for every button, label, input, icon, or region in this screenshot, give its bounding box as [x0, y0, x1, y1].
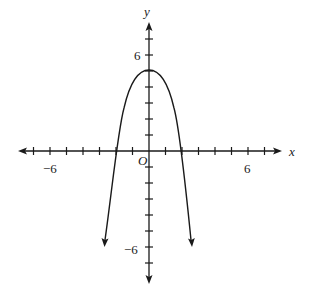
coordinate-graph: x y O −6 6 6 −6 [0, 0, 309, 294]
origin-label: O [138, 153, 148, 168]
x-tick-label-pos6: 6 [244, 161, 251, 176]
x-tick-label-neg6: −6 [43, 161, 57, 176]
x-axis-label: x [288, 144, 295, 159]
y-tick-label-pos6: 6 [134, 48, 141, 63]
y-axis-label: y [142, 4, 150, 19]
y-tick-label-neg6: −6 [124, 242, 138, 257]
